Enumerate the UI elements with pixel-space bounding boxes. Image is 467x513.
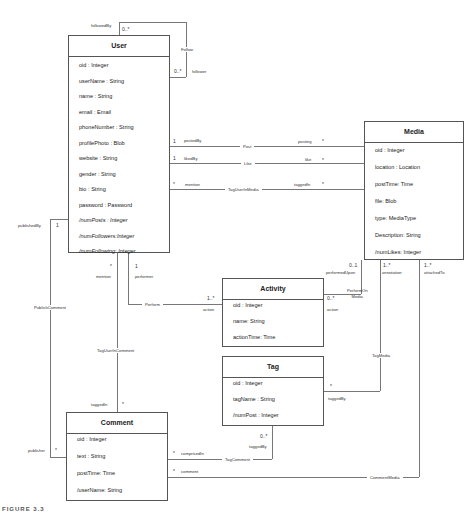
attribute: bio : String xyxy=(69,186,169,202)
comment-media-mult-a: 1..* xyxy=(424,262,432,268)
publish-comment-role-a: publishedBy xyxy=(18,223,41,228)
attribute: /numLikes: Integer xyxy=(365,249,463,266)
like-role-a: likedBy xyxy=(184,156,198,161)
publish-comment-mult-a: 1 xyxy=(56,222,59,228)
attribute: gender : String xyxy=(69,171,169,187)
publish-comment-line xyxy=(50,219,51,457)
comment-media-name: CommentMedia xyxy=(367,475,403,480)
tag-comment-line xyxy=(168,459,272,460)
attribute: /numFollowers:Integer xyxy=(69,233,169,249)
perform-mult-b: 1..* xyxy=(207,295,215,301)
class-media[interactable]: Media oid : Integer location : Location … xyxy=(364,121,464,260)
class-tag-attributes: oid : Integer tagName : String /numPost … xyxy=(223,378,323,428)
tag-comment-name: TagComment xyxy=(222,457,253,462)
follow-line xyxy=(119,22,186,23)
tag-media-mult-a: 1..* xyxy=(383,262,391,268)
attribute: profilePhoto : Blob xyxy=(69,140,169,156)
post-mult-b: * xyxy=(322,138,324,144)
perform-on-media-role-b: performedUpon xyxy=(326,270,355,275)
perform-mult-a: 1 xyxy=(135,263,138,269)
tag-media-role-b: taggedBy xyxy=(328,396,346,401)
tag-comment-mult-b: * xyxy=(173,450,175,456)
tag-user-in-media-mult-a: * xyxy=(173,181,175,187)
class-user-attributes: oid : Integer userName : String name : S… xyxy=(69,57,169,264)
attribute: postTime: Time xyxy=(365,181,463,198)
perform-role-a: performer xyxy=(135,274,153,279)
attribute: location : Location xyxy=(365,164,463,181)
tag-comment-line xyxy=(272,425,273,459)
tag-media-line xyxy=(380,260,381,391)
class-activity-attributes: oid : Integer name: String actionTime: T… xyxy=(223,300,323,350)
publish-comment-line xyxy=(50,219,70,220)
like-mult-b: * xyxy=(322,157,324,163)
tag-media-mult-b: * xyxy=(330,383,332,389)
like-role-b: like xyxy=(305,157,311,162)
attribute: oid : Integer xyxy=(67,436,167,453)
like-mult-a: 1 xyxy=(173,155,176,161)
class-tag[interactable]: Tag oid : Integer tagName : String /numP… xyxy=(222,356,324,426)
class-media-title: Media xyxy=(365,122,463,143)
post-name: Post xyxy=(240,144,254,149)
tag-user-in-media-name: TagUserInMedia xyxy=(225,187,262,192)
follow-mult-a: 0..* xyxy=(122,26,130,32)
attribute: /numFollowing: Integer xyxy=(69,248,169,264)
attribute: type: MediaType xyxy=(365,215,463,232)
attribute: name: String xyxy=(223,318,323,334)
comment-media-mult-b: * xyxy=(173,468,175,474)
class-user-title: User xyxy=(69,36,169,57)
comment-media-role-a: attachedTo xyxy=(424,270,445,275)
perform-on-media-name: PerformOnMedia xyxy=(347,288,367,300)
like-name: Like xyxy=(241,161,255,166)
tag-user-in-comment-mult-b: * xyxy=(122,401,124,407)
perform-on-media-mult-b: 0..1 xyxy=(349,262,357,268)
tag-user-in-comment-name: TagUserInComment xyxy=(97,348,134,353)
follow-role-a: followedBy xyxy=(91,23,111,28)
tag-user-in-comment-mult-a: * xyxy=(110,263,112,269)
attribute: password : Password xyxy=(69,202,169,218)
follow-role-b: follower xyxy=(192,69,206,74)
class-activity[interactable]: Activity oid : Integer name: String acti… xyxy=(222,278,324,347)
tag-comment-mult-a: 0..* xyxy=(260,433,268,439)
attribute: name : String xyxy=(69,93,169,109)
attribute: phoneNumber : String xyxy=(69,124,169,140)
tag-media-line xyxy=(324,391,380,392)
follow-mult-b: 0..* xyxy=(174,68,182,74)
tag-user-in-comment-role-b: taggedIn xyxy=(91,402,107,407)
attribute: oid : Integer xyxy=(223,380,323,396)
attribute: oid : Integer xyxy=(365,147,463,164)
tag-comment-role-a: taggedBy xyxy=(249,444,267,449)
class-comment[interactable]: Comment oid : Integer text : String post… xyxy=(66,412,168,501)
tag-media-role-a: annotation xyxy=(382,270,402,275)
class-comment-attributes: oid : Integer text : String postTime: Ti… xyxy=(67,434,167,504)
attribute: /userName: String xyxy=(67,487,167,504)
attribute: actionTime: Time xyxy=(223,334,323,350)
perform-role-b: action xyxy=(203,307,214,312)
comment-media-role-b: comment xyxy=(181,469,198,474)
comment-media-line xyxy=(419,260,420,477)
attribute: postTime: Time xyxy=(67,470,167,487)
publish-comment-role-b: publisher xyxy=(28,448,45,453)
post-mult-a: 1 xyxy=(173,138,176,144)
tag-user-in-media-line xyxy=(170,189,364,190)
attribute: oid : Integer xyxy=(223,302,323,318)
tag-user-in-media-mult-b: * xyxy=(322,181,324,187)
attribute: tagName : String xyxy=(223,396,323,412)
figure-caption: FIGURE 3.3 xyxy=(2,506,45,512)
perform-name: Perform xyxy=(142,302,163,307)
follow-name: Follow xyxy=(181,47,193,52)
tag-media-name: TagMedia xyxy=(372,353,390,358)
post-line xyxy=(170,146,364,147)
post-role-a: postedBy xyxy=(184,138,201,143)
attribute: file: Blob xyxy=(365,198,463,215)
class-comment-title: Comment xyxy=(67,413,167,434)
post-role-b: posting xyxy=(298,139,312,144)
class-media-attributes: oid : Integer location : Location postTi… xyxy=(365,143,463,266)
attribute: website : String xyxy=(69,155,169,171)
class-tag-title: Tag xyxy=(223,357,323,378)
attribute: userName : String xyxy=(69,78,169,94)
class-user[interactable]: User oid : Integer userName : String nam… xyxy=(68,35,170,253)
publish-comment-mult-b: * xyxy=(55,447,57,453)
follow-line xyxy=(119,22,120,36)
tag-user-in-comment-role-a: mention xyxy=(96,274,111,279)
tag-user-in-media-role-b: taggedIn xyxy=(294,182,310,187)
